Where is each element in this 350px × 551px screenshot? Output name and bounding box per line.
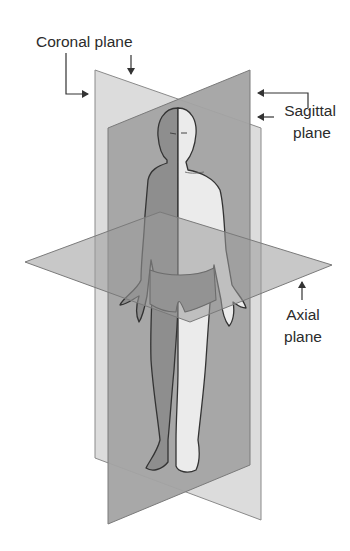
axial-plane-label-line1: Axial <box>273 306 333 324</box>
axial-plane-label-line2: plane <box>273 328 333 346</box>
anatomical-planes-diagram <box>0 0 350 551</box>
coronal-plane-label: Coronal plane <box>36 33 133 51</box>
sagittal-plane-label-line2: plane <box>282 124 342 142</box>
sagittal-plane-label-line1: Sagittal <box>275 102 345 120</box>
